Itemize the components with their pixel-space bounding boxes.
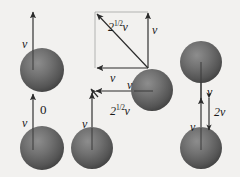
- triangle-diagonal-variable: v: [123, 20, 128, 34]
- mid-diagonal-exponent: 1/2: [116, 103, 125, 112]
- mid-right-velocity-label: v: [127, 79, 132, 91]
- triangle-right-velocity-label: v: [152, 24, 157, 36]
- mid-diagonal-variable: v: [125, 104, 130, 118]
- left-upper-sphere: [20, 48, 64, 92]
- right-lower-velocity-label: v: [190, 121, 195, 133]
- triangle-diagonal-label: 21/2v: [108, 20, 128, 33]
- triangle-bottom-velocity-label: v: [110, 72, 115, 84]
- right-relative-velocity-label: 2v: [214, 106, 225, 118]
- mid-right-sphere: [131, 69, 173, 111]
- left-relative-velocity-label: 0: [40, 103, 47, 116]
- triangle-diagonal-exponent: 1/2: [114, 19, 123, 28]
- left-lower-sphere: [20, 126, 64, 170]
- left-lower-velocity-label: v: [22, 117, 27, 129]
- left-group: [20, 12, 64, 170]
- physics-diagram: v v 0 21/2v v v v v 21/2v v v 2v: [0, 0, 240, 177]
- left-upper-velocity-label: v: [22, 38, 27, 50]
- right-upper-velocity-label: v: [207, 86, 212, 98]
- mid-lower-velocity-label: v: [82, 118, 87, 130]
- mid-diagonal-label: 21/2v: [110, 104, 130, 117]
